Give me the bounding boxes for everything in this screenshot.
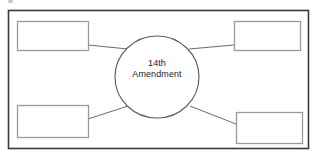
connector-bottom-right <box>190 106 236 124</box>
worksheet-page: 14th Amendment <box>0 0 317 157</box>
connector-top-right <box>189 45 234 49</box>
connector-top-left <box>88 45 128 49</box>
box-top-right[interactable] <box>235 22 301 51</box>
connector-bottom-left <box>88 106 128 119</box>
box-top-left[interactable] <box>18 22 89 51</box>
center-node-label: 14th Amendment <box>116 58 198 80</box>
center-node-label-line2: Amendment <box>116 69 198 80</box>
box-bottom-left[interactable] <box>18 106 89 138</box>
center-node-label-line1: 14th <box>116 58 198 69</box>
box-bottom-right[interactable] <box>237 113 303 144</box>
